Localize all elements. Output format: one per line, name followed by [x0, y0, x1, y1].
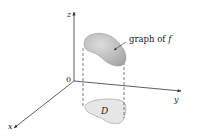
surface-label-prefix: graph of	[129, 34, 168, 44]
y-axis	[74, 81, 181, 91]
z-axis-label: z	[66, 10, 72, 19]
x-axis	[14, 81, 74, 128]
diagram-canvas: z y x 0 graph of f D	[0, 0, 199, 139]
y-axis-label: y	[173, 95, 179, 104]
surface-label-func: f	[167, 34, 173, 44]
x-axis-label: x	[8, 122, 13, 131]
region-label: D	[100, 106, 108, 116]
surface-label: graph of f	[129, 34, 173, 44]
surface-graph-of-f	[84, 33, 126, 66]
origin-label: 0	[66, 75, 71, 84]
